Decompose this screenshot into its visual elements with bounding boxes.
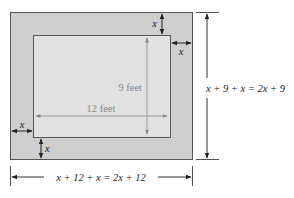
inner-rectangle	[34, 36, 171, 138]
top-border-label: x	[151, 18, 157, 29]
left-border-label: x	[19, 119, 25, 130]
diagram-canvas: 9 feet 12 feet x x x x x + 9 + x = 2x + …	[0, 0, 294, 198]
bottom-border-label: x	[44, 143, 50, 154]
height-label: 9 feet	[118, 82, 142, 93]
total-width-label: x + 12 + x = 2x + 12	[55, 172, 146, 183]
right-border-label: x	[178, 46, 184, 57]
width-label: 12 feet	[87, 103, 116, 114]
total-height-label: x + 9 + x = 2x + 9	[205, 83, 286, 94]
